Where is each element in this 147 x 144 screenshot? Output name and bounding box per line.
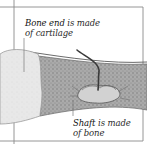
bone-end-line2: of cartilage	[25, 28, 100, 38]
cartilage-end	[0, 50, 42, 125]
shaft-line1-rest: is made	[95, 118, 130, 128]
bone-end-label: Bone end is made of cartilage	[25, 18, 100, 38]
bone-end-line1-rest: is made	[65, 18, 100, 28]
bone-end-term: Bone end	[25, 18, 65, 28]
shaft-term: Shaft	[73, 118, 95, 128]
shaft-line2: of bone	[73, 128, 131, 138]
shaft-label: Shaft is made of bone	[73, 118, 131, 138]
